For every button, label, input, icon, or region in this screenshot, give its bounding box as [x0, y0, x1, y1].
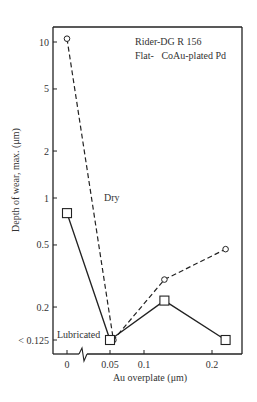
x-tick-label: 0.2	[206, 359, 219, 370]
point-lubricated	[106, 336, 115, 345]
y-tick-label: 5	[44, 83, 49, 94]
point-lubricated	[221, 336, 230, 345]
plot-frame	[53, 27, 242, 361]
wear-depth-chart: 105210.50.2< 0.125 00.050.10.2 Rider-DG …	[0, 0, 257, 402]
y-tick-label: 10	[39, 37, 49, 48]
x-tick-label: 0.1	[138, 359, 151, 370]
y-tick-label: 0.2	[37, 302, 50, 313]
x-tick-label: 0.05	[101, 359, 119, 370]
annotation-flat: Flat- CoAu-plated Pd	[135, 50, 226, 61]
y-tick-label: 2	[44, 146, 49, 157]
annotation-rider: Rider-DG R 156	[135, 36, 201, 47]
point-dry	[64, 36, 70, 42]
series-label-lubricated: Lubricated	[57, 329, 100, 340]
series-layer	[63, 36, 231, 345]
x-axis-label: Au overplate (μm)	[113, 372, 187, 384]
series-label-dry: Dry	[104, 192, 120, 203]
series-line-lubricated	[67, 213, 226, 340]
y-tick-label: < 0.125	[18, 335, 49, 346]
point-dry	[223, 246, 229, 252]
y-tick-label: 1	[44, 193, 49, 204]
point-lubricated	[160, 296, 169, 305]
x-axis-break	[79, 348, 87, 361]
x-tick-label: 0	[65, 359, 70, 370]
point-lubricated	[63, 209, 72, 218]
y-axis-ticks: 105210.50.2< 0.125	[18, 37, 57, 346]
point-dry	[162, 277, 168, 283]
series-line-dry	[67, 39, 226, 340]
y-tick-label: 0.5	[37, 239, 50, 250]
y-axis-label: Depth of wear, max. (μm)	[10, 128, 22, 232]
x-axis-ticks: 00.050.10.2	[65, 350, 219, 370]
